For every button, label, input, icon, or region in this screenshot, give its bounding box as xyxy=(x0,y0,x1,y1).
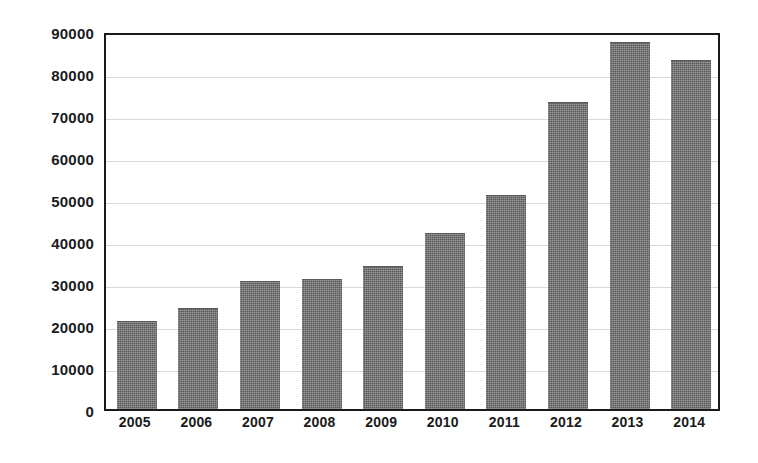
y-tick-label: 80000 xyxy=(0,68,94,83)
x-tick-label: 2012 xyxy=(550,415,582,429)
bar-slot xyxy=(291,35,353,409)
bar-slot xyxy=(229,35,291,409)
bar[interactable] xyxy=(302,279,342,409)
bar[interactable] xyxy=(240,281,280,409)
bar[interactable] xyxy=(117,321,157,409)
bar-chart: 0100002000030000400005000060000700008000… xyxy=(0,0,758,463)
x-tick-label: 2011 xyxy=(489,415,520,429)
bar-slot xyxy=(352,35,414,409)
bar[interactable] xyxy=(548,102,588,409)
y-tick-label: 0 xyxy=(0,404,94,419)
bar-slot xyxy=(106,35,168,409)
y-tick-label: 20000 xyxy=(0,320,94,335)
y-tick-label: 70000 xyxy=(0,110,94,125)
y-tick-label: 40000 xyxy=(0,236,94,251)
y-axis: 0100002000030000400005000060000700008000… xyxy=(0,0,104,463)
y-tick-label: 60000 xyxy=(0,152,94,167)
bar-slot xyxy=(168,35,230,409)
bar-slot xyxy=(414,35,476,409)
plot-area xyxy=(104,33,720,411)
bar[interactable] xyxy=(610,42,650,410)
x-tick-label: 2010 xyxy=(427,415,459,429)
x-tick-label: 2006 xyxy=(180,415,212,429)
bar[interactable] xyxy=(486,195,526,409)
bar-slot xyxy=(476,35,538,409)
x-tick-label: 2008 xyxy=(304,415,336,429)
bar[interactable] xyxy=(425,233,465,409)
y-tick-label: 50000 xyxy=(0,194,94,209)
y-tick-label: 30000 xyxy=(0,278,94,293)
bar-slot xyxy=(660,35,722,409)
bar-slot xyxy=(537,35,599,409)
bars-layer xyxy=(106,35,718,409)
y-tick-label: 10000 xyxy=(0,362,94,377)
x-tick-label: 2009 xyxy=(365,415,397,429)
y-tick-label: 90000 xyxy=(0,26,94,41)
x-tick-label: 2014 xyxy=(673,415,705,429)
x-axis: 2005200620072008200920102011201220132014 xyxy=(104,415,720,443)
x-tick-label: 2007 xyxy=(242,415,274,429)
bar-slot xyxy=(599,35,661,409)
bar[interactable] xyxy=(671,60,711,409)
bar[interactable] xyxy=(178,308,218,409)
bar[interactable] xyxy=(363,266,403,409)
x-tick-label: 2005 xyxy=(119,415,151,429)
x-tick-label: 2013 xyxy=(612,415,644,429)
